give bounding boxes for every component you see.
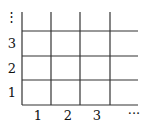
y-axis-label: 2 <box>8 61 16 76</box>
x-axis-label: 3 <box>93 108 101 123</box>
y-axis-continuation: ⋮ <box>5 9 18 24</box>
y-axis-label: 3 <box>8 36 16 51</box>
x-axis-label: 1 <box>34 108 42 123</box>
x-axis-continuation: ··· <box>128 106 140 121</box>
y-axis-label: 1 <box>8 85 16 100</box>
grid-diagram: ⋮ 3 2 1 1 2 3 ··· <box>0 0 146 126</box>
x-axis-label: 2 <box>64 108 72 123</box>
